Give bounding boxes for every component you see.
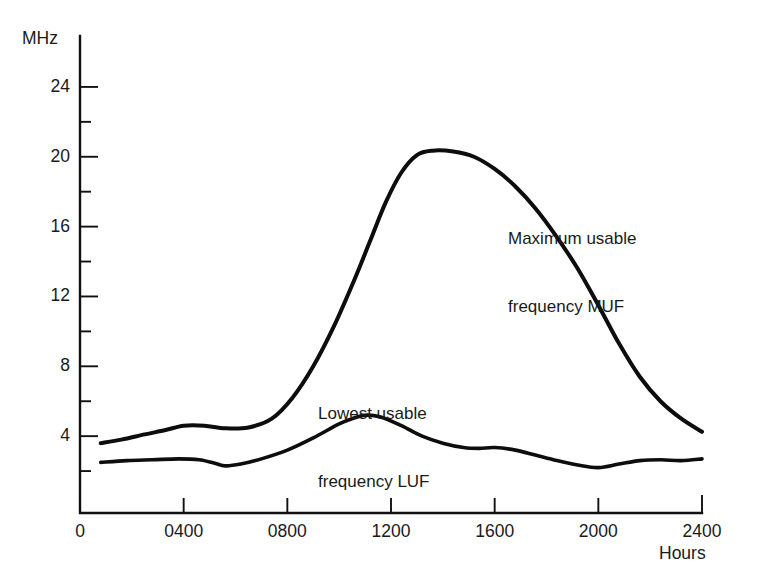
chart-container: MHz Hours 4812162024 0040008001200160020… (0, 0, 760, 585)
x-axis-unit-label: Hours (659, 543, 706, 564)
muf-annotation-line-1: Maximum usable (508, 228, 637, 251)
x-tick-label-2000: 2000 (563, 521, 633, 542)
y-tick-label-8: 8 (26, 355, 70, 376)
muf-annotation: Maximum usable frequency MUF (508, 183, 637, 364)
y-tick-label-20: 20 (26, 146, 70, 167)
y-tick-label-16: 16 (26, 216, 70, 237)
x-tick-label-0800: 0800 (252, 521, 322, 542)
y-axis-unit-label: MHz (22, 28, 58, 49)
x-tick-label-0: 0 (45, 521, 115, 542)
luf-annotation-line-1: Lowest usable (318, 403, 430, 426)
x-tick-label-0400: 0400 (149, 521, 219, 542)
luf-annotation-line-2: frequency LUF (318, 471, 430, 494)
muf-annotation-line-2: frequency MUF (508, 296, 637, 319)
y-tick-label-12: 12 (26, 285, 70, 306)
x-tick-label-1600: 1600 (460, 521, 530, 542)
y-tick-label-24: 24 (26, 76, 70, 97)
y-tick-label-4: 4 (26, 425, 70, 446)
x-tick-label-2400: 2400 (667, 521, 737, 542)
luf-annotation: Lowest usable frequency LUF (318, 358, 430, 539)
